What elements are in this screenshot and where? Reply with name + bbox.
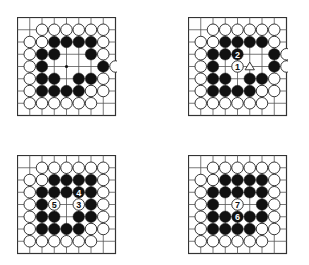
black-stone [219,174,231,186]
black-stone [207,85,219,97]
move-number-label: 5 [52,200,57,210]
black-stone [48,186,60,198]
white-stone [24,73,36,85]
white-stone [97,211,109,223]
white-stone [244,235,256,247]
black-stone [73,174,85,186]
black-stone [36,73,48,85]
move-number-label: 3 [76,200,81,210]
white-stone [48,162,60,174]
black-stone [207,48,219,60]
white-stone [256,97,268,109]
white-stone [85,223,97,235]
white-stone [73,97,85,109]
white-stone [97,174,109,186]
white-stone [195,48,207,60]
white-stone [244,162,256,174]
white-stone [97,186,109,198]
white-stone [268,73,280,85]
black-stone [232,174,244,186]
black-stone [36,61,48,73]
white-stone [256,223,268,235]
black-stone [97,61,109,73]
black-stone [219,223,231,235]
move-number-label: 2 [235,50,240,60]
white-stone [61,24,73,36]
black-stone [219,73,231,85]
white-stone [36,162,48,174]
white-stone [24,211,36,223]
black-stone [73,36,85,48]
white-stone [36,24,48,36]
black-stone [61,223,73,235]
black-stone [61,36,73,48]
white-stone [97,223,109,235]
black-stone [61,85,73,97]
white-stone [195,199,207,211]
board-4: 76 [188,155,287,254]
white-stone [268,199,280,211]
white-stone [24,85,36,97]
black-stone [244,174,256,186]
white-stone [256,235,268,247]
white-stone [24,174,36,186]
black-stone [73,73,85,85]
white-stone [219,97,231,109]
white-stone [268,211,280,223]
white-stone [195,174,207,186]
white-stone [207,36,219,48]
black-stone [232,186,244,198]
black-stone [48,223,60,235]
black-stone [85,211,97,223]
black-stone [244,186,256,198]
board-grid: 12 [188,17,288,117]
black-stone [207,73,219,85]
white-stone [36,174,48,186]
white-stone [281,48,288,60]
black-stone [244,36,256,48]
black-stone [256,174,268,186]
white-stone [24,48,36,60]
star-point [65,65,68,68]
white-stone [244,97,256,109]
black-stone [219,211,231,223]
white-stone [36,235,48,247]
white-stone [61,162,73,174]
white-stone [48,24,60,36]
black-stone [244,85,256,97]
black-stone [219,186,231,198]
white-stone [85,85,97,97]
black-stone [256,199,268,211]
black-stone [244,223,256,235]
black-stone [85,199,97,211]
board-grid: 435 [17,155,117,255]
white-stone [268,186,280,198]
black-stone [48,48,60,60]
white-stone [207,235,219,247]
white-stone [256,85,268,97]
white-stone [232,97,244,109]
triangle-mark-icon [245,62,254,70]
move-number-label: 6 [235,212,240,222]
black-stone [244,73,256,85]
white-stone [219,162,231,174]
white-stone [268,223,280,235]
black-stone [256,73,268,85]
white-stone [73,24,85,36]
black-stone [36,85,48,97]
black-stone [256,36,268,48]
white-stone [256,162,268,174]
black-stone [207,186,219,198]
white-stone [36,36,48,48]
black-stone [48,36,60,48]
white-stone [85,24,97,36]
white-stone [24,186,36,198]
black-stone [85,73,97,85]
white-stone [97,48,109,60]
black-stone [219,85,231,97]
black-stone [61,174,73,186]
white-stone [97,199,109,211]
white-stone [97,73,109,85]
black-stone [268,48,280,60]
white-stone [195,85,207,97]
